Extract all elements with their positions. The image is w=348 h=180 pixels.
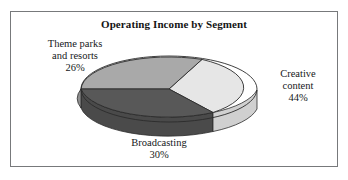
pie-chart-screenshot: Operating Income by Segment Theme parks: [0, 0, 348, 180]
pie-label-creative-content-line1: Creative: [261, 68, 335, 80]
pie-label-theme-parks-value: 26%: [23, 62, 127, 74]
pie-label-creative-content-value: 44%: [261, 92, 335, 104]
chart-frame: Operating Income by Segment Theme parks: [10, 11, 338, 167]
pie-slice-side-theme-parks: [77, 89, 81, 108]
pie-label-theme-parks: Theme parks and resorts 26%: [23, 38, 127, 74]
pie-label-theme-parks-line1: Theme parks: [23, 38, 127, 50]
pie-label-broadcasting-value: 30%: [99, 149, 219, 161]
pie-label-creative-content: Creative content 44%: [261, 68, 335, 104]
pie-label-broadcasting-line1: Broadcasting: [99, 137, 219, 149]
pie-label-broadcasting: Broadcasting 30%: [99, 137, 219, 161]
pie-label-theme-parks-line2: and resorts: [23, 50, 127, 62]
pie-label-creative-content-line2: content: [261, 80, 335, 92]
